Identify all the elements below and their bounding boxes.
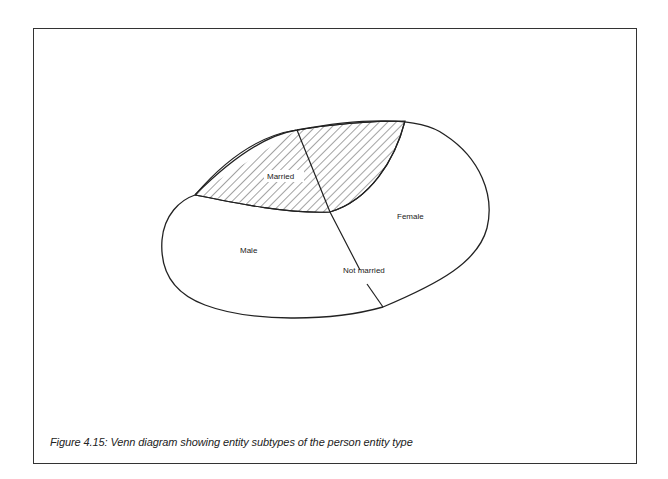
- female-label: Female: [397, 212, 424, 221]
- male-label: Male: [240, 246, 258, 255]
- not-married-label: Not married: [343, 266, 385, 275]
- married-label: Married: [267, 172, 294, 181]
- venn-diagram: Married Female Male Not married: [0, 0, 668, 479]
- figure-caption: Figure 4.15: Venn diagram showing entity…: [50, 436, 413, 448]
